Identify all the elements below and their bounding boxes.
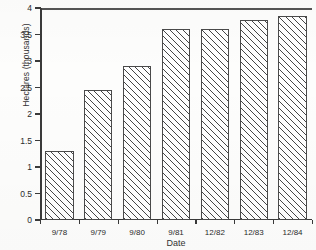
y-tick-label: 3: [27, 56, 32, 66]
y-tick: 1.5: [35, 140, 41, 141]
x-tick-label: 9/79: [90, 228, 106, 237]
x-tick-label: 12/82: [205, 228, 225, 237]
y-tick: 2: [35, 113, 41, 114]
y-tick: 1: [35, 166, 41, 167]
bar: [278, 16, 306, 220]
y-tick-label: 2: [27, 109, 32, 119]
x-tick-label: 12/83: [244, 228, 264, 237]
y-tick-label: 1.5: [20, 136, 32, 146]
plot-area: 00.511.522.533.54 9/789/799/809/8112/821…: [40, 8, 312, 220]
x-tick-label: 12/84: [283, 228, 303, 237]
x-tick: [157, 220, 158, 224]
y-tick-label: 3.5: [20, 30, 32, 40]
plot-top-rule: [40, 8, 312, 10]
bar-chart-figure: Hectares (thousands) 00.511.522.533.54 9…: [0, 0, 316, 250]
x-tick-label: 9/81: [168, 228, 184, 237]
y-tick-label: 0: [27, 215, 32, 225]
x-tick-label: 9/78: [52, 228, 68, 237]
x-tick: [195, 220, 196, 224]
x-tick: [118, 220, 119, 224]
y-tick-label: 0.5: [20, 189, 32, 199]
x-tick: [273, 220, 274, 224]
x-tick: [312, 220, 313, 224]
bar: [240, 20, 268, 220]
x-tick: [40, 220, 41, 224]
y-tick: 3.5: [35, 34, 41, 35]
bar: [162, 29, 190, 220]
y-tick-label: 4: [27, 3, 32, 13]
y-tick: 2.5: [35, 87, 41, 88]
x-tick: [79, 220, 80, 224]
y-tick-label: 2.5: [20, 83, 32, 93]
y-tick: 4: [35, 7, 41, 8]
x-axis-title: Date: [40, 238, 312, 248]
bar: [45, 151, 73, 220]
x-tick: [234, 220, 235, 224]
y-axis-title: Hectares (thousands): [21, 0, 31, 145]
bar: [123, 66, 151, 220]
y-tick: 3: [35, 60, 41, 61]
bar: [84, 90, 112, 220]
x-tick-label: 9/80: [129, 228, 145, 237]
bar: [201, 29, 229, 220]
y-tick-label: 1: [27, 162, 32, 172]
y-tick: 0.5: [35, 193, 41, 194]
